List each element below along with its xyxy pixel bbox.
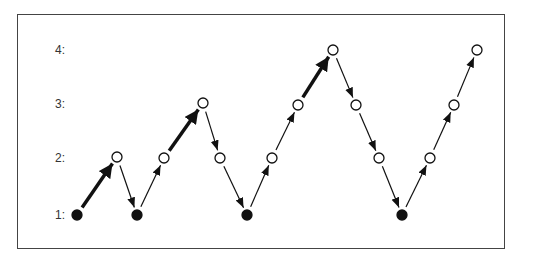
thin-arrow bbox=[224, 166, 244, 208]
thin-arrow bbox=[276, 112, 295, 150]
open-node bbox=[472, 45, 482, 55]
thin-arrow bbox=[406, 165, 427, 207]
thick-arrow bbox=[82, 164, 112, 208]
open-node bbox=[328, 45, 338, 55]
filled-node bbox=[72, 210, 82, 220]
diagram-canvas bbox=[0, 0, 534, 261]
thick-arrow bbox=[303, 57, 329, 98]
thin-arrow bbox=[251, 165, 269, 206]
filled-node bbox=[397, 210, 407, 220]
thin-arrow bbox=[336, 58, 352, 97]
filled-node bbox=[132, 210, 142, 220]
open-node bbox=[449, 100, 459, 110]
open-node bbox=[293, 100, 303, 110]
open-node bbox=[267, 153, 277, 163]
edges bbox=[82, 57, 474, 208]
open-node bbox=[374, 153, 384, 163]
thin-arrow bbox=[360, 113, 376, 150]
filled-node bbox=[242, 210, 252, 220]
nodes bbox=[72, 45, 482, 220]
open-node bbox=[112, 152, 122, 162]
thin-arrow bbox=[141, 165, 161, 207]
thick-arrow bbox=[169, 110, 198, 151]
open-node bbox=[215, 153, 225, 163]
open-node bbox=[351, 100, 361, 110]
thin-arrow bbox=[120, 166, 134, 208]
open-node bbox=[425, 153, 435, 163]
thin-arrow bbox=[382, 166, 399, 207]
thin-arrow bbox=[457, 57, 473, 96]
open-node bbox=[198, 98, 208, 108]
open-node bbox=[159, 153, 169, 163]
thin-arrow bbox=[434, 112, 451, 150]
thin-arrow bbox=[206, 112, 218, 151]
